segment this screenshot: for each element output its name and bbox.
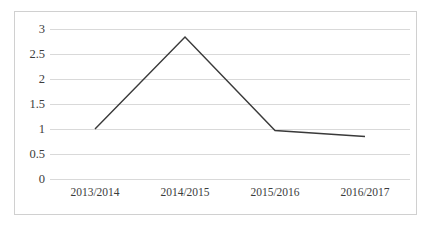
- y-axis-tick-labels: 00.511.522.53: [0, 29, 45, 179]
- gridline: [50, 154, 410, 155]
- y-axis-tick-label: 1.5: [5, 98, 45, 111]
- gridline: [50, 54, 410, 55]
- y-axis-tick-label: 1: [5, 123, 45, 136]
- x-axis-tick-label: 2014/2015: [160, 186, 209, 200]
- gridline: [50, 129, 410, 130]
- x-axis-tick-label: 2016/2017: [340, 186, 389, 200]
- y-axis-tick-label: 0: [5, 173, 45, 186]
- y-axis-tick-label: 2: [5, 73, 45, 86]
- gridline: [50, 29, 410, 30]
- gridline: [50, 104, 410, 105]
- x-axis-tick-labels: 2013/20142014/20152015/20162016/2017: [50, 186, 410, 204]
- x-axis-tick-label: 2015/2016: [250, 186, 299, 200]
- line-chart-figure: 00.511.522.53 2013/20142014/20152015/201…: [0, 0, 430, 229]
- y-axis-tick-label: 2.5: [5, 48, 45, 61]
- gridline: [50, 179, 410, 180]
- y-axis-tick-label: 3: [5, 23, 45, 36]
- x-axis-tick-label: 2013/2014: [70, 186, 119, 200]
- plot-area: [50, 29, 410, 179]
- y-axis-tick-label: 0.5: [5, 148, 45, 161]
- gridline: [50, 79, 410, 80]
